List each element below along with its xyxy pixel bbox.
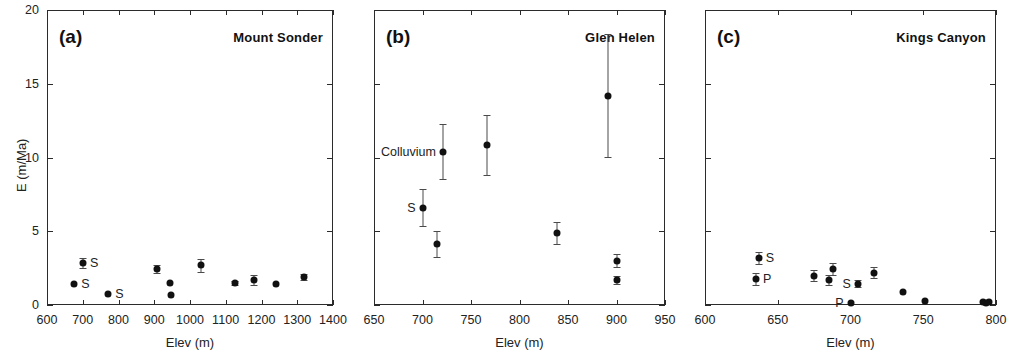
y-axis-tick: [705, 158, 711, 159]
x-axis-tick-label: 800: [985, 313, 1006, 327]
x-axis-tick-label: 700: [840, 313, 861, 327]
x-axis-tick: [778, 300, 779, 305]
data-point: [752, 276, 759, 283]
x-axis-tick-top: [923, 10, 924, 15]
y-axis-tick-right: [990, 305, 996, 306]
x-axis-tick: [996, 300, 997, 305]
x-axis-title: Elev (m): [826, 335, 874, 350]
data-point: [899, 289, 906, 296]
y-axis-tick-right: [990, 158, 996, 159]
data-point: [755, 254, 762, 261]
y-axis-tick-right: [990, 10, 996, 11]
x-axis-tick-label: 600: [694, 313, 715, 327]
plot-frame: [705, 10, 996, 305]
y-axis-tick-right: [990, 84, 996, 85]
data-point-label: S: [766, 251, 774, 265]
x-axis-tick-label: 650: [767, 313, 788, 327]
data-point-label: P: [835, 296, 843, 310]
x-axis-tick-top: [996, 10, 997, 15]
data-point-label: S: [842, 277, 850, 291]
x-axis-tick-label: 750: [913, 313, 934, 327]
error-bar-cap-bottom: [755, 264, 762, 265]
x-axis-tick-top: [851, 10, 852, 15]
erosion-rate-figure: 6007008009001000110012001300140005101520…: [0, 0, 1011, 354]
x-axis-tick-top: [778, 10, 779, 15]
panel-letter: (c): [717, 26, 740, 48]
data-point: [847, 300, 854, 307]
chart-panel-3: 600650700750800Elev (m)(c)Kings CanyonSP…: [0, 0, 1011, 354]
data-point: [921, 297, 928, 304]
panel-title: Kings Canyon: [896, 30, 986, 45]
error-bar-cap-top: [752, 273, 759, 274]
error-bar-cap-bottom: [870, 278, 877, 279]
data-point-label: P: [763, 272, 771, 286]
y-axis-tick-right: [990, 231, 996, 232]
y-axis-tick: [705, 231, 711, 232]
error-bar-cap-bottom: [854, 287, 861, 288]
error-bar-cap-bottom: [825, 285, 832, 286]
y-axis-tick: [705, 84, 711, 85]
error-bar-cap-top: [830, 263, 837, 264]
data-point: [870, 269, 877, 276]
data-point: [854, 280, 861, 287]
error-bar-cap-bottom: [830, 275, 837, 276]
error-bar-cap-top: [755, 252, 762, 253]
data-point: [811, 272, 818, 279]
y-axis-tick: [705, 10, 711, 11]
data-point: [985, 299, 992, 306]
error-bar-cap-bottom: [752, 285, 759, 286]
data-point: [825, 276, 832, 283]
data-point: [830, 265, 837, 272]
error-bar-cap-bottom: [811, 281, 818, 282]
y-axis-tick: [705, 305, 711, 306]
